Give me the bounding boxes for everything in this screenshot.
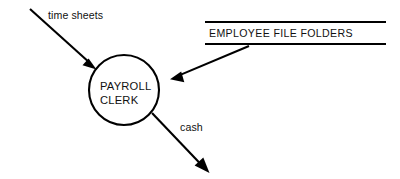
diagram-canvas: EMPLOYEE FILE FOLDERS PAYROLL CLERK time…: [0, 0, 400, 179]
flow-cash[interactable]: cash: [152, 113, 210, 173]
flow-employee-records-line: [179, 46, 250, 76]
flow-time-sheets-label: time sheets: [48, 9, 103, 21]
process-label-line-2: CLERK: [100, 94, 139, 106]
flow-employee-records[interactable]: [170, 46, 249, 82]
flow-time-sheets-arrowhead: [83, 59, 97, 70]
process-payroll-clerk[interactable]: PAYROLL CLERK: [89, 55, 159, 125]
process-label-line-1: PAYROLL: [100, 80, 151, 92]
data-store-employee-file-folders[interactable]: EMPLOYEE FILE FOLDERS: [205, 22, 386, 44]
flow-time-sheets[interactable]: time sheets: [30, 9, 103, 70]
flow-cash-label: cash: [180, 121, 203, 133]
data-store-label: EMPLOYEE FILE FOLDERS: [209, 27, 353, 39]
data-flow-diagram: EMPLOYEE FILE FOLDERS PAYROLL CLERK time…: [0, 0, 400, 179]
